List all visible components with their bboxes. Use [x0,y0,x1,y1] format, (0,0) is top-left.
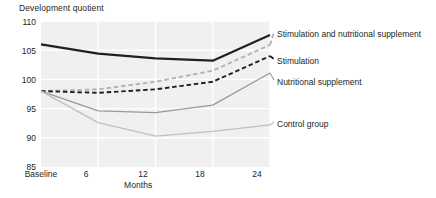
plot-area [0,0,436,198]
line-chart: Development quotient Months 110 105 100 … [0,0,436,198]
